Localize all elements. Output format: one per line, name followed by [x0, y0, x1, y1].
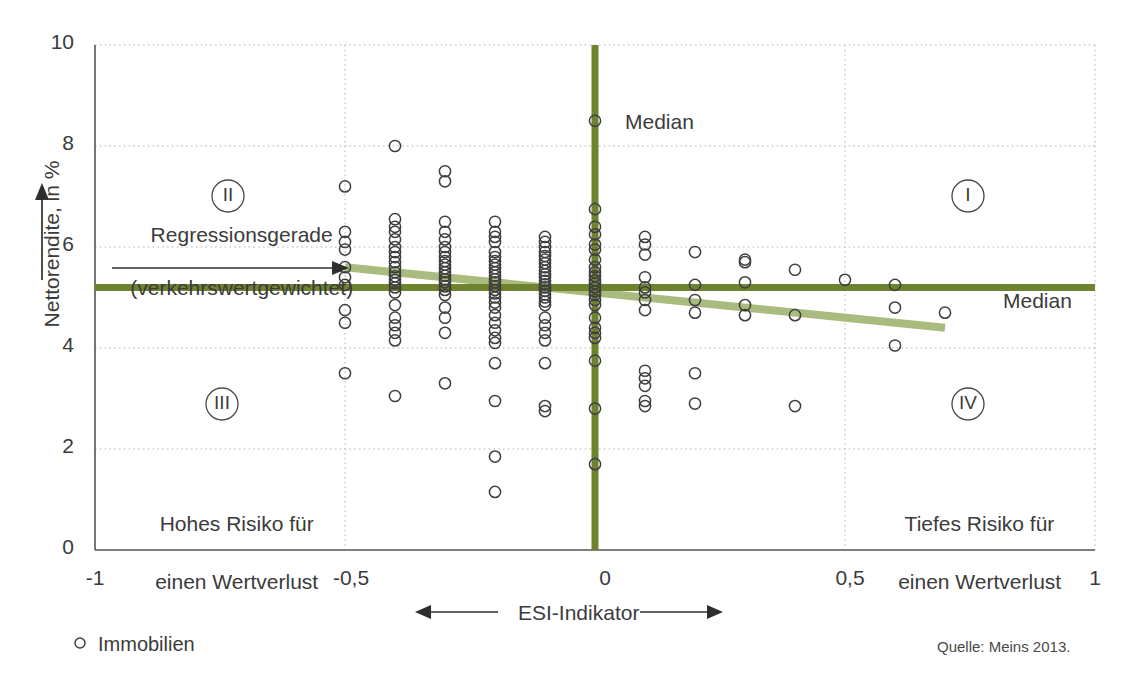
- chart-root: Nettorendite, in % 10 8 6 4 2 0 -1 -0,5 …: [0, 0, 1134, 677]
- x-axis-title: ESI-Indikator: [518, 601, 639, 625]
- y-tick-4: 4: [40, 333, 74, 357]
- quadrant-label-1: I: [949, 184, 987, 206]
- regression-annotation: Regressionsgerade (verkehrswertgewichtet…: [100, 196, 360, 327]
- quadrant-label-2: II: [209, 184, 247, 206]
- legend-item-immobilien: Immobilien: [98, 633, 195, 656]
- risk-low-line2: einen Wertverlust: [898, 570, 1061, 593]
- risk-high-line2: einen Wertverlust: [155, 570, 318, 593]
- risk-low-note: Tiefes Risiko für einen Wertverlust: [848, 481, 1088, 626]
- legend-marker: [75, 638, 85, 648]
- quadrant-label-4: IV: [949, 392, 987, 414]
- median-label-right: Median: [1003, 289, 1072, 313]
- data-points-group: [339, 115, 950, 497]
- y-tick-10: 10: [40, 30, 74, 54]
- regression-annotation-line1: Regressionsgerade: [151, 223, 333, 246]
- source-note: Quelle: Meins 2013.: [937, 638, 1070, 655]
- y-tick-0: 0: [40, 535, 74, 559]
- risk-high-note: Hohes Risiko für einen Wertverlust: [105, 481, 345, 626]
- risk-low-line1: Tiefes Risiko für: [905, 512, 1055, 535]
- y-tick-6: 6: [40, 232, 74, 256]
- median-label-top: Median: [625, 110, 694, 134]
- x-tick-0: 0: [575, 566, 635, 590]
- risk-high-line1: Hohes Risiko für: [160, 512, 314, 535]
- quadrant-label-3: III: [203, 392, 241, 414]
- y-tick-2: 2: [40, 434, 74, 458]
- y-tick-8: 8: [40, 131, 74, 155]
- regression-annotation-line2: (verkehrswertgewichtet): [130, 276, 353, 299]
